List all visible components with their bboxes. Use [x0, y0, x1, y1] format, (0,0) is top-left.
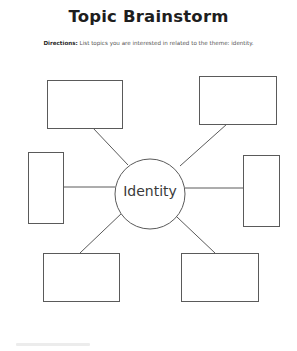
- connector-top-right: [180, 124, 227, 166]
- connector-top-left: [93, 128, 128, 165]
- box-bottom-left[interactable]: [44, 254, 120, 302]
- box-right[interactable]: [244, 156, 280, 227]
- center-topic-label: Identity: [115, 183, 185, 199]
- connector-bottom-right: [177, 217, 215, 253]
- box-top-right[interactable]: [200, 77, 277, 125]
- box-bottom-right[interactable]: [182, 254, 259, 302]
- footer-watermark: [16, 343, 90, 346]
- box-left[interactable]: [29, 153, 64, 224]
- brainstorm-web-diagram: [0, 0, 297, 351]
- connector-bottom-left: [80, 212, 123, 253]
- box-top-left[interactable]: [48, 81, 123, 129]
